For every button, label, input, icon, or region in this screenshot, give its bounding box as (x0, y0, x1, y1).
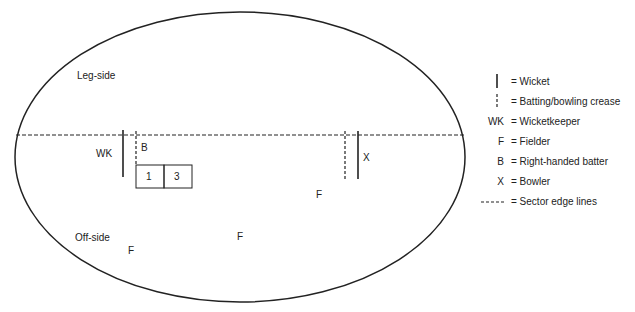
fielder-marker: F (237, 231, 243, 243)
legend-text: = Wicketkeeper (511, 115, 580, 129)
legend-text: = Bowler (511, 175, 550, 189)
legend-text: = Wicket (511, 75, 550, 89)
legend-text: = Fielder (511, 135, 550, 149)
wicketkeeper-marker: WK (96, 148, 112, 160)
legend-symbol: B (468, 155, 504, 169)
bowler-marker: X (363, 152, 370, 164)
sector-3-label: 3 (174, 171, 180, 183)
sector-1-label: 1 (146, 171, 152, 183)
leg-side-label: Leg-side (77, 70, 115, 82)
fielder-marker: F (128, 245, 134, 257)
off-side-label: Off-side (75, 232, 110, 244)
legend-symbol: F (468, 135, 504, 149)
legend-symbol: X (468, 175, 504, 189)
legend-text: = Batting/bowling crease (511, 95, 620, 109)
legend-text: = Sector edge lines (511, 195, 597, 209)
fielder-marker: F (316, 189, 322, 201)
batter-marker: B (141, 142, 148, 154)
legend-text: = Right-handed batter (511, 155, 608, 169)
field-boundary (15, 12, 465, 302)
legend-symbol: WK (468, 115, 504, 129)
